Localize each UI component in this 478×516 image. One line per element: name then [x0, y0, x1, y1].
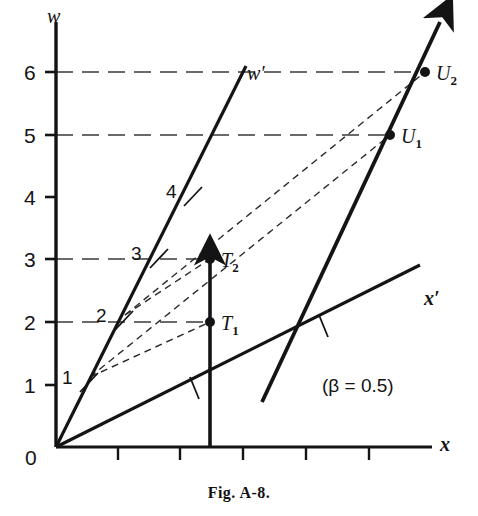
label-U2-sub: 2	[450, 73, 457, 88]
label-T2: T2	[221, 250, 239, 274]
w-prime-tick-label-4: 4	[166, 182, 177, 201]
beta-annotation: (β = 0.5)	[322, 376, 394, 395]
x-prime-axis-label: x′	[424, 288, 440, 308]
point-T2	[205, 254, 215, 264]
w-tick-label-5: 5	[24, 125, 36, 146]
w-prime-tick-label-3: 3	[131, 244, 142, 263]
label-T1: T1	[221, 313, 239, 337]
origin-label: 0	[25, 447, 37, 468]
w-tick-label-4: 4	[24, 187, 36, 208]
light-signal-lines	[90, 72, 425, 377]
w-tick-label-3: 3	[24, 249, 36, 270]
x-axis-ticks	[118, 447, 369, 460]
w-prime-tick-4	[184, 187, 202, 206]
label-U2: U2	[436, 63, 457, 87]
point-T1	[205, 317, 215, 327]
w-prime-tick-label-2: 2	[96, 306, 107, 325]
w-tick-label-2: 2	[24, 312, 36, 333]
label-T1-sub: 1	[232, 323, 239, 338]
reference-horizontal-lines	[56, 72, 425, 322]
dashed-1-to-T1	[90, 322, 210, 377]
label-T2-letter: T	[221, 249, 232, 271]
w-tick-label-6: 6	[24, 62, 36, 83]
x-prime-tick-2	[319, 315, 328, 337]
point-U2	[420, 67, 430, 77]
label-U2-letter: U	[436, 62, 450, 84]
point-U1	[385, 130, 395, 140]
spacetime-diagram	[0, 0, 478, 516]
label-U1-letter: U	[401, 125, 415, 147]
w-prime-tick-1	[80, 373, 98, 392]
dashed-2-to-T2	[125, 259, 210, 315]
w-prime-axis	[56, 66, 246, 447]
w-prime-axis-label: w′	[247, 63, 265, 83]
u-worldline-arrow	[262, 22, 440, 402]
label-U1-sub: 1	[415, 136, 422, 151]
figure-caption: Fig. A-8.	[0, 484, 478, 502]
w-axis-label: w	[47, 6, 60, 26]
label-T1-letter: T	[221, 312, 232, 334]
x-prime-axis	[56, 265, 420, 447]
label-U1: U1	[401, 126, 422, 150]
x-prime-tick-1	[190, 377, 199, 399]
w-prime-tick-label-1: 1	[62, 368, 73, 387]
w-tick-label-1: 1	[24, 375, 36, 396]
event-points	[205, 67, 430, 327]
label-T2-sub: 2	[232, 260, 239, 275]
x-axis-label: x	[440, 434, 450, 454]
